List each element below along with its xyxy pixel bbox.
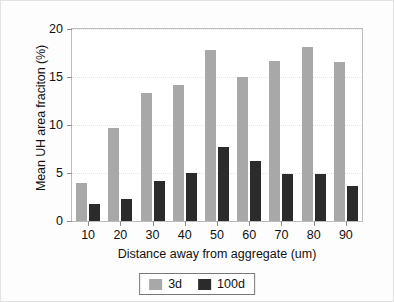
legend-swatch-3d xyxy=(149,279,162,290)
y-axis-tick xyxy=(67,125,72,126)
bar-3d-90 xyxy=(334,62,345,221)
bar-100d-10 xyxy=(89,204,100,221)
y-axis-tick-label: 10 xyxy=(49,118,63,132)
x-axis-tick-label: 60 xyxy=(242,228,256,242)
bar-100d-30 xyxy=(154,181,165,221)
bar-100d-90 xyxy=(347,186,358,221)
bar-100d-20 xyxy=(121,199,132,221)
y-axis-title: Mean UH area fraciton (%) xyxy=(34,18,48,218)
y-axis-tick xyxy=(67,221,72,222)
x-axis-tick xyxy=(153,221,154,226)
bar-100d-80 xyxy=(315,174,326,221)
legend-swatch-100d xyxy=(198,279,211,290)
bar-100d-70 xyxy=(282,174,293,221)
legend-entry-100d[interactable]: 100d xyxy=(198,277,245,291)
legend-label-3d: 3d xyxy=(168,277,182,291)
bar-100d-40 xyxy=(186,173,197,221)
chart-figure: Mean UH area fraciton (%) 05101520102030… xyxy=(0,0,394,302)
x-axis-tick xyxy=(249,221,250,226)
x-axis-tick-label: 30 xyxy=(146,228,160,242)
x-axis-tick xyxy=(185,221,186,226)
gridline xyxy=(72,77,362,78)
x-axis-tick xyxy=(346,221,347,226)
x-axis-tick-label: 40 xyxy=(178,228,192,242)
x-axis-tick xyxy=(314,221,315,226)
x-axis-tick-label: 20 xyxy=(113,228,127,242)
x-axis-tick-label: 10 xyxy=(81,228,95,242)
x-axis-tick-label: 80 xyxy=(307,228,321,242)
legend-label-100d: 100d xyxy=(217,277,245,291)
bar-3d-70 xyxy=(269,61,280,221)
chart-legend: 3d 100d xyxy=(139,273,255,295)
bar-3d-60 xyxy=(237,77,248,221)
y-axis-tick xyxy=(67,77,72,78)
bar-3d-30 xyxy=(141,93,152,221)
bar-3d-10 xyxy=(76,183,87,221)
bar-3d-80 xyxy=(302,47,313,221)
bar-3d-20 xyxy=(108,128,119,221)
bar-100d-60 xyxy=(250,161,261,221)
y-axis-tick-label: 15 xyxy=(49,70,63,84)
gridline xyxy=(72,29,362,30)
x-axis-tick xyxy=(217,221,218,226)
x-axis-tick-label: 50 xyxy=(210,228,224,242)
y-axis-tick-label: 20 xyxy=(49,22,63,36)
x-axis-tick xyxy=(120,221,121,226)
x-axis-tick xyxy=(281,221,282,226)
x-axis-title: Distance away from aggregate (um) xyxy=(71,247,363,261)
bar-100d-50 xyxy=(218,147,229,221)
y-axis-tick-label: 0 xyxy=(56,214,63,228)
gridline xyxy=(72,125,362,126)
bar-3d-50 xyxy=(205,50,216,221)
y-axis-tick-label: 5 xyxy=(56,166,63,180)
bar-3d-40 xyxy=(173,85,184,221)
y-axis-tick xyxy=(67,173,72,174)
x-axis-tick xyxy=(88,221,89,226)
y-axis-tick xyxy=(67,29,72,30)
x-axis-tick-label: 90 xyxy=(339,228,353,242)
legend-entry-3d[interactable]: 3d xyxy=(149,277,182,291)
plot-area: 05101520102030405060708090 xyxy=(71,28,363,222)
x-axis-tick-label: 70 xyxy=(274,228,288,242)
